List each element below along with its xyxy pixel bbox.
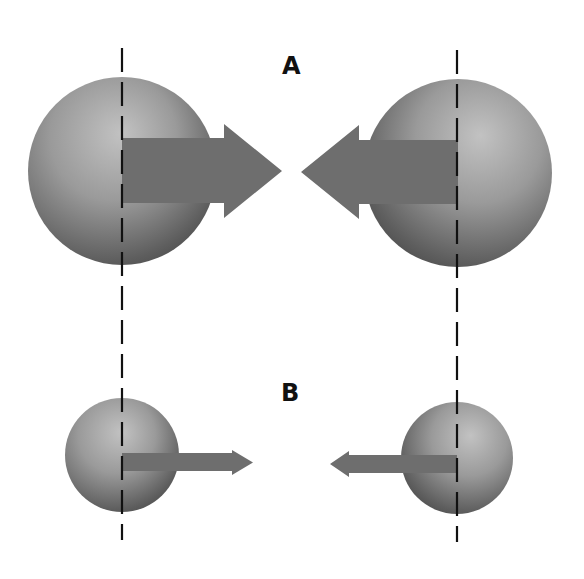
- diagram-canvas: [0, 0, 584, 579]
- panel-label-b: B: [281, 381, 299, 405]
- panel-label-a: A: [282, 54, 301, 78]
